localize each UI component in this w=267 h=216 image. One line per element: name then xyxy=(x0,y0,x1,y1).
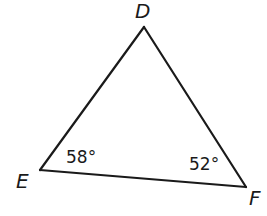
angle-label-e: 58° xyxy=(66,147,96,167)
angle-label-f: 52° xyxy=(189,154,219,174)
vertex-label-d: D xyxy=(135,0,150,23)
vertex-label-e: E xyxy=(16,169,29,193)
vertex-label-f: F xyxy=(249,186,261,210)
triangle-diagram: D E F 58° 52° xyxy=(0,0,267,216)
